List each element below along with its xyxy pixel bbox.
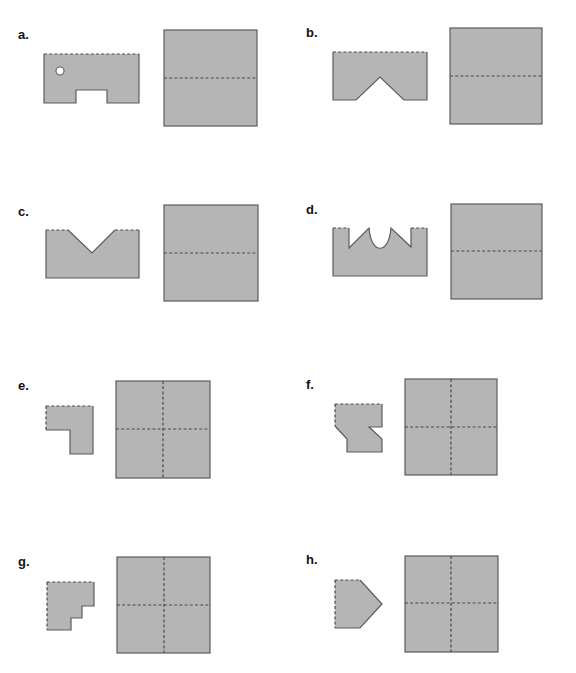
folded-shape	[46, 230, 139, 278]
panel-label: g.	[18, 554, 30, 569]
panel-c: c.	[18, 204, 258, 301]
unfolded-paper	[450, 28, 542, 124]
panel-e: e.	[18, 378, 210, 478]
unfolded-paper	[405, 556, 498, 652]
panel-label: d.	[306, 202, 318, 217]
paper-folding-diagram: a. b. c.	[0, 0, 576, 673]
panel-f: f.	[306, 377, 497, 475]
folded-shape	[44, 54, 139, 103]
unfolded-paper	[405, 379, 497, 475]
panel-h: h.	[306, 552, 498, 652]
unfolded-paper	[164, 30, 257, 126]
panel-label: h.	[306, 552, 318, 567]
panel-a: a.	[18, 27, 257, 126]
panel-d: d.	[306, 202, 542, 299]
panel-label: f.	[306, 377, 314, 392]
folded-shape	[335, 404, 382, 452]
unfolded-paper	[117, 557, 210, 653]
folded-shape	[47, 582, 94, 630]
unfolded-paper	[164, 205, 258, 301]
folded-shape	[335, 580, 382, 628]
panel-label: a.	[18, 27, 29, 42]
panel-label: e.	[18, 378, 29, 393]
unfolded-paper	[116, 381, 210, 478]
unfolded-paper	[451, 204, 542, 299]
panel-b: b.	[306, 25, 542, 124]
panel-g: g.	[18, 554, 210, 653]
folded-shape	[46, 406, 93, 454]
panel-label: b.	[306, 25, 318, 40]
punched-hole	[56, 67, 64, 75]
folded-shape	[333, 228, 427, 276]
folded-shape	[333, 52, 427, 100]
panel-label: c.	[18, 204, 29, 219]
